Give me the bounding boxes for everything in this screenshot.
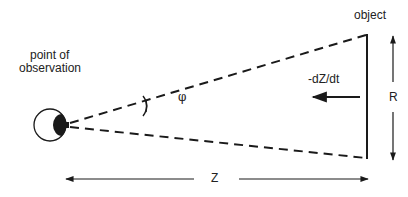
diagram-canvas: point of observation object -dZ/dt φ R Z	[0, 0, 408, 197]
angle-label: φ	[178, 91, 186, 104]
diagram-graphics	[0, 0, 408, 197]
size-label: R	[389, 91, 398, 104]
velocity-label: -dZ/dt	[308, 73, 339, 86]
distance-label: Z	[211, 172, 218, 185]
observer-label-line2: observation	[19, 62, 81, 75]
object-label: object	[354, 9, 386, 22]
lower-sight-line	[70, 127, 366, 158]
eye-icon	[34, 109, 69, 141]
